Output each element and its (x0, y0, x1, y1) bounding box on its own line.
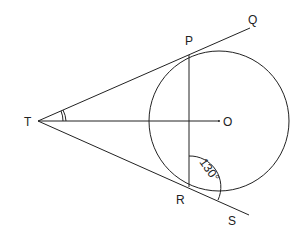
label-angle-130: 130° (197, 156, 223, 185)
point-O (218, 120, 220, 122)
label-Q: Q (248, 13, 257, 27)
geometry-diagram: T P Q O R S 130° (0, 0, 301, 234)
label-R: R (176, 193, 185, 207)
angle-mark-T-inner (61, 111, 63, 121)
label-O: O (223, 115, 232, 129)
label-S: S (228, 214, 236, 228)
tangent-TQ (38, 28, 250, 121)
label-T: T (24, 115, 32, 129)
label-P: P (185, 34, 193, 48)
